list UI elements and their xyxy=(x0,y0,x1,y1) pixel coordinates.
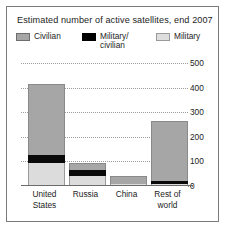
chart-legend: Civilian Military/ civilian Military xyxy=(16,32,214,54)
bar-segment-civilian xyxy=(151,121,188,181)
bar-segment-civilian xyxy=(69,163,106,170)
legend-label-military: Military xyxy=(174,32,200,41)
bar-russia xyxy=(69,163,106,186)
gridline-500 xyxy=(21,63,188,64)
x-axis-labels: United States Russia China Rest of world xyxy=(21,189,188,219)
xlabel-china: China xyxy=(106,189,147,200)
bar-segment-civilian xyxy=(110,176,147,184)
ytick-400: 400 xyxy=(190,83,204,93)
xlabel-rest-of-world: Rest of world xyxy=(147,189,188,210)
legend-label-military-civilian: Military/ civilian xyxy=(100,32,129,50)
xlabel-united-states: United States xyxy=(24,189,65,210)
plot-area: 500 400 300 200 100 0 xyxy=(21,63,188,186)
legend-item-civilian: Civilian xyxy=(16,32,61,41)
bar-segment-military-civilian xyxy=(28,155,65,162)
legend-item-military: Military xyxy=(156,32,200,41)
xlabel-russia-line1: Russia xyxy=(73,189,98,199)
ytick-500: 500 xyxy=(190,58,204,68)
xlabel-united-states-line1: United xyxy=(33,189,57,199)
ytick-200: 200 xyxy=(190,132,204,142)
ytick-100: 100 xyxy=(190,156,204,166)
chart-title: Estimated number of active satellites, e… xyxy=(17,15,212,25)
ytick-300: 300 xyxy=(190,107,204,117)
xlabel-russia: Russia xyxy=(65,189,106,200)
civilian-swatch-icon xyxy=(16,33,30,41)
military-civilian-swatch-icon xyxy=(82,33,96,41)
xlabel-china-line1: China xyxy=(116,189,138,199)
bar-segment-military xyxy=(28,163,65,186)
chart-figure: Estimated number of active satellites, e… xyxy=(6,6,219,222)
xlabel-rest-of-world-line1: Rest of xyxy=(154,189,180,199)
ytick-0: 0 xyxy=(190,181,195,191)
bar-united-states xyxy=(28,84,65,186)
x-axis-line xyxy=(21,185,193,186)
military-swatch-icon xyxy=(156,33,170,41)
xlabel-rest-of-world-line2: world xyxy=(158,200,178,210)
bar-rest-of-world xyxy=(151,121,188,186)
legend-item-military-civilian: Military/ civilian xyxy=(82,32,129,50)
bar-segment-civilian xyxy=(28,84,65,155)
legend-label-civilian: Civilian xyxy=(34,32,61,41)
xlabel-united-states-line2: States xyxy=(33,200,57,210)
legend-label-military-civilian-line2: civilian xyxy=(100,40,125,50)
